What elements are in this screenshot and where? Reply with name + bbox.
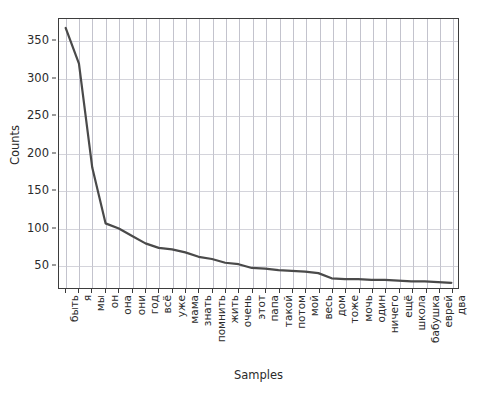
y-axis-tick-label: 300 [27, 71, 49, 85]
x-axis-tick-mark [399, 289, 400, 293]
x-axis-tick-mark [198, 289, 199, 293]
x-axis-tick-label: год [149, 295, 160, 314]
x-axis-tick-mark [132, 289, 133, 293]
x-axis-tick-mark [305, 289, 306, 293]
x-axis-tick-mark [172, 289, 173, 293]
x-axis-tick-label: такой [283, 295, 294, 327]
x-axis-tick-mark [105, 289, 106, 293]
x-axis-tick-label: ничего [389, 295, 400, 333]
x-axis-title: Samples [58, 368, 459, 382]
y-axis-tick-label: 100 [27, 221, 49, 235]
frequency-chart-figure: Counts 50100150200250300350 бытьямыонона… [0, 0, 482, 395]
x-axis-tick-label: всё [162, 295, 173, 313]
y-axis-tick-label: 150 [27, 183, 49, 197]
x-axis-tick-label: помнить [216, 295, 227, 342]
x-axis-tick-label: он [109, 295, 120, 308]
x-axis-tick-mark [238, 289, 239, 293]
x-axis-tick-label: школа [416, 295, 427, 331]
x-axis-tick-label: они [136, 295, 147, 315]
y-axis-tick-label: 250 [27, 108, 49, 122]
x-axis-tick-mark [252, 289, 253, 293]
y-axis-tick-mark [52, 265, 56, 266]
x-axis-tick-mark [185, 289, 186, 293]
x-axis-tick-label: тоже [349, 295, 360, 323]
x-axis-tick-label: потом [296, 295, 307, 329]
x-axis-tick-label: еврей [443, 295, 454, 328]
x-axis-tick-mark [372, 289, 373, 293]
x-axis-tick-label: она [122, 295, 133, 315]
x-axis-title-text: Samples [234, 368, 283, 382]
y-axis-tick-mark [52, 77, 56, 78]
x-axis-tick-label: ещё [403, 295, 414, 318]
x-axis-tick-mark [65, 289, 66, 293]
x-axis-tick-mark [359, 289, 360, 293]
x-axis-tick-mark [145, 289, 146, 293]
x-axis-tick-mark [332, 289, 333, 293]
x-axis-tick-label: дом [336, 295, 347, 317]
x-axis-tick-mark [91, 289, 92, 293]
y-axis-tick-mark [52, 227, 56, 228]
x-axis-tick-mark [158, 289, 159, 293]
x-axis-tick-mark [78, 289, 79, 293]
x-axis-tick-mark [426, 289, 427, 293]
x-axis-tick-mark [292, 289, 293, 293]
x-axis-tick-label: два [456, 295, 467, 315]
x-axis-tick-label: бабушка [430, 295, 441, 343]
x-axis-tick-mark [118, 289, 119, 293]
y-axis-ticks: 50100150200250300350 [0, 0, 58, 395]
x-axis-tick-label: быть [69, 295, 80, 322]
x-axis-tick-label: весь [323, 295, 334, 320]
x-axis-tick-label: мама [189, 295, 200, 324]
x-axis-tick-label: один [376, 295, 387, 322]
y-axis-tick-mark [52, 40, 56, 41]
y-axis-tick-mark [52, 115, 56, 116]
x-axis-tick-mark [279, 289, 280, 293]
y-axis-tick-label: 50 [34, 258, 49, 272]
x-axis-tick-label: этот [256, 295, 267, 319]
x-axis-tick-mark [452, 289, 453, 293]
y-axis-tick-mark [52, 152, 56, 153]
x-axis-tick-label: мы [95, 295, 106, 311]
x-axis-tick-mark [385, 289, 386, 293]
x-axis-tick-label: мой [309, 295, 320, 316]
x-axis-tick-label: очень [242, 295, 253, 327]
y-axis-tick-label: 200 [27, 146, 49, 160]
plot-area [58, 18, 459, 289]
x-axis-tick-label: мочь [363, 295, 374, 322]
x-axis-tick-label: я [82, 295, 93, 301]
x-axis-tick-mark [439, 289, 440, 293]
x-axis-tick-mark [265, 289, 266, 293]
counts-line-series [59, 19, 458, 288]
x-axis-tick-mark [412, 289, 413, 293]
x-axis-tick-label: уже [176, 295, 187, 317]
x-axis-tick-mark [319, 289, 320, 293]
y-axis-tick-mark [52, 190, 56, 191]
x-axis-tick-mark [345, 289, 346, 293]
x-axis-tick-label: знать [202, 295, 213, 326]
x-axis-tick-label: папа [269, 295, 280, 322]
x-axis-tick-mark [212, 289, 213, 293]
x-axis-tick-label: жить [229, 295, 240, 324]
y-axis-tick-label: 350 [27, 33, 49, 47]
x-axis-tick-mark [225, 289, 226, 293]
